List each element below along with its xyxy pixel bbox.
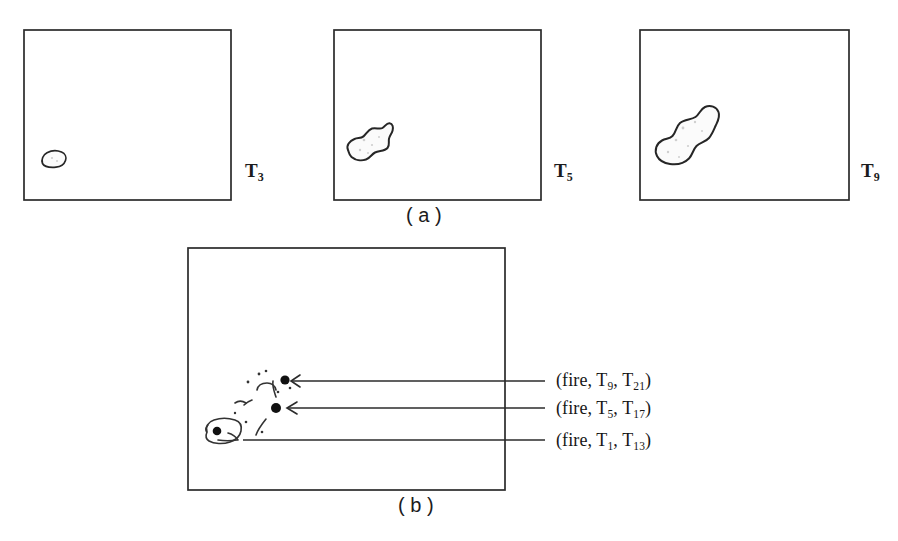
annotation-t9-t21: (fire, T9, T21) xyxy=(556,370,651,391)
speck xyxy=(258,373,261,376)
blob-speck xyxy=(667,151,669,153)
blob-speck xyxy=(701,130,703,132)
event-node-t9 xyxy=(280,375,289,384)
time-label-t3-base: T xyxy=(245,160,258,181)
time-label-t5-base: T xyxy=(554,160,567,181)
blob-speck xyxy=(363,139,366,142)
blob-speck xyxy=(359,149,361,151)
blob-speck xyxy=(694,121,696,123)
speck xyxy=(247,381,250,384)
frame-t9-border xyxy=(640,30,849,200)
annotation-t5-t17-sub2: 17 xyxy=(633,408,645,420)
speck xyxy=(265,370,268,373)
fire-blob-t3 xyxy=(42,151,66,168)
vehicle-region-detail-c xyxy=(218,440,237,441)
blob-speck xyxy=(687,145,689,147)
annotation-t1-t13-prefix: (fire, T xyxy=(556,430,607,450)
time-label-t9-base: T xyxy=(861,160,874,181)
panel-b xyxy=(188,248,545,490)
speck xyxy=(277,391,280,394)
figure-root: T3 T5 T9 ( a ) ( b ) (fire, T9, T21) (fi… xyxy=(0,0,898,541)
blob-speck xyxy=(378,136,380,138)
time-label-t5: T5 xyxy=(554,160,573,182)
frame-t5 xyxy=(334,30,541,200)
panel-b-border xyxy=(188,248,505,490)
annotation-t9-t21-suffix: ) xyxy=(645,370,651,390)
time-label-t9: T9 xyxy=(861,160,880,182)
blob-speck xyxy=(678,156,680,158)
annotation-t1-t13-suffix: ) xyxy=(645,430,651,450)
annotation-t5-t17: (fire, T5, T17) xyxy=(556,398,651,419)
blob-speck xyxy=(51,157,53,159)
annotation-t1-t13-sub2: 13 xyxy=(633,440,645,452)
fire-blob-t5 xyxy=(347,123,392,160)
annotation-t5-t17-sub1: 5 xyxy=(607,408,613,420)
annotation-t9-t21-sub1: 9 xyxy=(607,380,613,392)
fire-blob-t9 xyxy=(656,106,719,164)
event-node-t1 xyxy=(213,427,222,436)
speck xyxy=(245,421,248,424)
figure-canvas xyxy=(0,0,898,541)
annotation-t1-t13-middle: , T xyxy=(613,430,633,450)
annotation-t9-t21-prefix: (fire, T xyxy=(556,370,607,390)
panel-b-caption: ( b ) xyxy=(398,494,434,517)
annotation-t1-t13-sub1: 1 xyxy=(607,440,613,452)
annotation-t9-t21-middle: , T xyxy=(613,370,633,390)
annotation-t9-t21-sub2: 21 xyxy=(633,380,645,392)
frame-t9 xyxy=(640,30,849,200)
annotation-t1-t13: (fire, T1, T13) xyxy=(556,430,651,451)
blob-speck xyxy=(682,127,685,130)
time-label-t3: T3 xyxy=(245,160,264,182)
time-label-t5-sub: 5 xyxy=(567,170,573,184)
panel-a-caption: ( a ) xyxy=(406,204,442,227)
frame-t3 xyxy=(24,30,231,200)
speck xyxy=(289,387,292,390)
blob-speck xyxy=(675,139,678,142)
event-node-t5 xyxy=(271,403,281,413)
vehicle-region-detail-b xyxy=(228,433,238,440)
annotation-t5-t17-middle: , T xyxy=(613,398,633,418)
blob-speck xyxy=(56,160,58,162)
blob-speck xyxy=(371,144,373,146)
sketch-link-left xyxy=(235,401,246,403)
time-label-t9-sub: 9 xyxy=(874,170,880,184)
frame-t3-border xyxy=(24,30,231,200)
blob-speck xyxy=(367,152,369,154)
frame-t5-border xyxy=(334,30,541,200)
time-label-t3-sub: 3 xyxy=(258,170,264,184)
annotation-t5-t17-prefix: (fire, T xyxy=(556,398,607,418)
annotation-t5-t17-suffix: ) xyxy=(645,398,651,418)
speck xyxy=(234,412,236,414)
speck xyxy=(261,431,264,434)
